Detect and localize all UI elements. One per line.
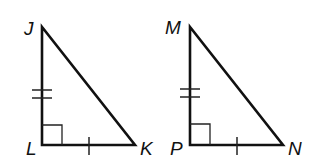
right-angle-mark-p <box>190 124 210 145</box>
right-angle-mark-l <box>42 125 62 145</box>
diagram-canvas: J L K M P N <box>0 0 316 161</box>
vertex-label-m: M <box>165 17 181 38</box>
vertex-label-l: L <box>26 138 37 159</box>
triangles-diagram: J L K M P N <box>0 0 316 161</box>
vertex-label-k: K <box>140 138 154 159</box>
vertex-label-n: N <box>288 138 302 159</box>
triangle-mpn: M P N <box>165 17 302 159</box>
triangle-jlk: J L K <box>23 18 154 159</box>
vertex-label-j: J <box>23 18 34 39</box>
triangle-mpn-outline <box>190 27 283 145</box>
vertex-label-p: P <box>170 138 183 159</box>
triangle-jlk-outline <box>42 27 135 145</box>
